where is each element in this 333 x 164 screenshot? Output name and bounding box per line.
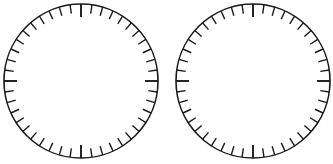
dial-tick <box>118 138 123 146</box>
dial-tick <box>320 91 329 92</box>
dial-tick <box>195 126 202 132</box>
dial-tick <box>298 23 304 30</box>
dial-tick <box>203 132 209 139</box>
dial-tick <box>188 118 196 123</box>
dial-tick <box>183 49 191 53</box>
dial-tick <box>177 91 186 92</box>
dial-tick <box>231 146 234 155</box>
dial-tick <box>7 59 16 62</box>
dial-tick <box>23 126 30 132</box>
dial-tick <box>109 11 113 19</box>
dial-tick <box>70 5 71 14</box>
dial-tick <box>16 39 24 44</box>
dial-tick <box>7 100 16 103</box>
dial-tick <box>11 49 19 53</box>
dial-tick <box>318 100 327 103</box>
dial-tick <box>211 138 216 146</box>
dial-tick <box>281 143 285 151</box>
dial-tick <box>304 31 311 37</box>
dial-tick <box>281 11 285 19</box>
figure-canvas <box>0 0 333 164</box>
dial-tick <box>138 39 146 44</box>
dial-tick <box>11 109 19 113</box>
dial-tick <box>263 5 264 14</box>
dial-tick <box>290 138 295 146</box>
dial-tick <box>188 39 196 44</box>
dial-tick <box>148 70 157 71</box>
dial-tick <box>59 7 62 16</box>
dial-tick <box>211 16 216 24</box>
dial-tick <box>221 143 225 151</box>
dial-tick <box>179 59 188 62</box>
dial-tick <box>183 109 191 113</box>
dial-tick <box>263 148 264 157</box>
dial-ring-left <box>0 0 162 164</box>
dial-tick <box>272 7 275 16</box>
dial-tick <box>5 70 14 71</box>
dial-tick <box>39 138 44 146</box>
dial-tick <box>118 16 123 24</box>
dial-tick <box>298 132 304 139</box>
dial-tick <box>126 23 132 30</box>
dial-tick <box>31 132 37 139</box>
dial-tick <box>315 49 323 53</box>
dial-tick <box>320 70 329 71</box>
dial-tick <box>148 91 157 92</box>
dial-tick <box>143 49 151 53</box>
dial-tick <box>91 148 92 157</box>
dial-tick <box>126 132 132 139</box>
dial-tick <box>132 31 139 37</box>
dial-tick <box>146 100 155 103</box>
dial-tick <box>146 59 155 62</box>
dial-tick <box>242 148 243 157</box>
dial-ring-right <box>172 0 333 164</box>
dial-tick <box>177 70 186 71</box>
dial-tick <box>132 126 139 132</box>
dial-tick <box>290 16 295 24</box>
dial-outer-circle <box>176 4 330 158</box>
dial-tick <box>195 31 202 37</box>
dial-ring-right-svg <box>172 0 333 164</box>
dial-tick <box>100 7 103 16</box>
dial-tick <box>23 31 30 37</box>
dial-tick <box>179 100 188 103</box>
dial-tick <box>31 23 37 30</box>
dial-tick <box>310 39 318 44</box>
dial-outer-circle <box>4 4 158 158</box>
dial-tick <box>16 118 24 123</box>
dial-tick <box>310 118 318 123</box>
dial-tick <box>272 146 275 155</box>
dial-tick <box>315 109 323 113</box>
dial-tick <box>203 23 209 30</box>
dial-tick <box>138 118 146 123</box>
dial-tick <box>91 5 92 14</box>
dial-tick <box>49 11 53 19</box>
dial-tick <box>318 59 327 62</box>
dial-ring-left-svg <box>0 0 162 164</box>
dial-tick <box>231 7 234 16</box>
dial-tick <box>49 143 53 151</box>
dial-tick <box>242 5 243 14</box>
dial-tick <box>221 11 225 19</box>
dial-tick <box>143 109 151 113</box>
dial-tick <box>5 91 14 92</box>
dial-tick <box>39 16 44 24</box>
dial-tick <box>70 148 71 157</box>
dial-tick <box>59 146 62 155</box>
dial-tick <box>109 143 113 151</box>
dial-tick <box>100 146 103 155</box>
dial-tick <box>304 126 311 132</box>
